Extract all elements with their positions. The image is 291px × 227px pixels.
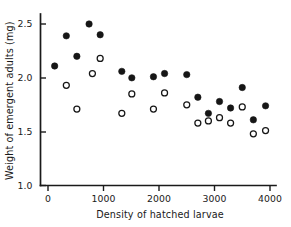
data-point-filled xyxy=(74,53,80,59)
data-point-layer xyxy=(51,21,268,137)
data-point-filled xyxy=(161,70,167,76)
data-point-filled xyxy=(63,33,69,39)
data-point-open xyxy=(217,115,223,121)
data-point-open xyxy=(205,118,211,124)
x-tick-label-4000: 4000 xyxy=(258,193,282,204)
y-tick-label-1.5: 1.5 xyxy=(17,126,32,137)
x-tick-label-1000: 1000 xyxy=(91,193,115,204)
data-point-open xyxy=(63,82,69,88)
data-point-filled xyxy=(239,84,245,90)
data-point-open xyxy=(74,106,80,112)
data-point-filled xyxy=(184,71,190,77)
data-point-filled xyxy=(97,32,103,38)
y-tick-label-2.5: 2.5 xyxy=(17,18,32,29)
data-point-filled xyxy=(119,68,125,74)
x-axis-title: Density of hatched larvae xyxy=(96,209,224,220)
data-point-filled xyxy=(227,105,233,111)
data-point-open xyxy=(89,71,95,77)
data-point-open xyxy=(97,55,103,61)
data-point-open xyxy=(184,102,190,108)
y-tick-label-2.0: 2.0 xyxy=(17,72,32,83)
x-tick-label-3000: 3000 xyxy=(202,193,226,204)
data-point-filled xyxy=(262,103,268,109)
data-point-open xyxy=(119,110,125,116)
data-point-open xyxy=(162,90,168,96)
y-tick-label-1.0: 1.0 xyxy=(17,180,32,191)
data-point-filled xyxy=(216,98,222,104)
data-point-open xyxy=(239,104,245,110)
data-point-filled xyxy=(51,63,57,69)
data-point-open xyxy=(228,120,234,126)
data-point-filled xyxy=(129,75,135,81)
plot-canvas: Weight of emergent adults (mg) 2.5 2.0 1… xyxy=(0,0,291,227)
y-axis-title: Weight of emergent adults (mg) xyxy=(4,21,15,180)
data-point-filled xyxy=(150,74,156,80)
data-point-open xyxy=(250,131,256,137)
data-point-filled xyxy=(205,110,211,116)
data-point-open xyxy=(129,91,135,97)
data-point-open xyxy=(150,106,156,112)
x-tick-label-2000: 2000 xyxy=(147,193,171,204)
scatter-plot-figure: Weight of emergent adults (mg) 2.5 2.0 1… xyxy=(0,0,291,227)
data-point-filled xyxy=(86,21,92,27)
x-tick-label-0: 0 xyxy=(45,193,51,204)
data-point-filled xyxy=(195,94,201,100)
data-point-open xyxy=(263,128,269,134)
data-point-open xyxy=(195,120,201,126)
data-point-filled xyxy=(250,117,256,123)
